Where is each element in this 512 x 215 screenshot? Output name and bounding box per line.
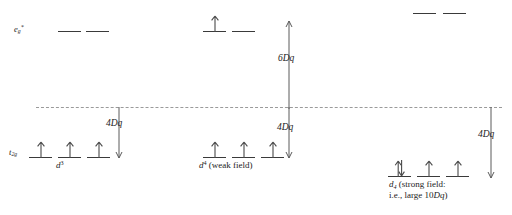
energy-label-4dq-middle: 4Dq: [277, 122, 293, 132]
electron-up-arrow: [268, 141, 278, 158]
measure-arrow-4dq-left: [113, 107, 125, 159]
measure-arrow-4dq-middle: [283, 107, 295, 159]
level-eg-2-group-d4-weak: [232, 31, 255, 32]
electron-up-arrow: [210, 15, 220, 32]
energy-label-6dq: 6Dq: [278, 53, 294, 63]
level-eg-1-group-d3: [58, 31, 81, 32]
electron-up-arrow: [36, 141, 46, 158]
t2g-orbital-label: t2g: [9, 147, 17, 157]
level-eg-1-group-d4-strong: [413, 13, 436, 14]
configuration-label-line2: i.e., large 10Dq): [389, 190, 448, 200]
electron-pair-arrows: [394, 160, 406, 177]
electron-up-arrow: [424, 160, 434, 177]
electron-up-arrow: [65, 141, 75, 158]
electron-up-arrow: [94, 141, 104, 158]
configuration-label-line1: d4 (strong field:: [389, 179, 448, 190]
configuration-label-d4-weak: d4 (weak field): [199, 160, 253, 170]
configuration-label-d3: d3d3: [56, 160, 64, 170]
level-eg-2-group-d4-strong: [443, 13, 466, 14]
diagram-canvas: eg* t2g d3d3 4Dq: [0, 0, 512, 215]
level-eg-2-group-d3: [86, 31, 109, 32]
barycenter-dashed-line: [36, 107, 502, 108]
eg-orbital-label: eg*: [14, 24, 24, 34]
configuration-label-d4-strong: d4 (strong field: i.e., large 10Dq): [389, 179, 448, 200]
energy-label-4dq-left: 4Dq: [106, 118, 122, 128]
measure-arrow-4dq-right: [485, 107, 497, 179]
measure-arrow-6dq: [283, 20, 295, 110]
electron-up-arrow: [239, 141, 249, 158]
electron-up-arrow: [210, 141, 220, 158]
electron-up-arrow: [453, 160, 463, 177]
energy-label-4dq-right: 4Dq: [478, 129, 494, 139]
